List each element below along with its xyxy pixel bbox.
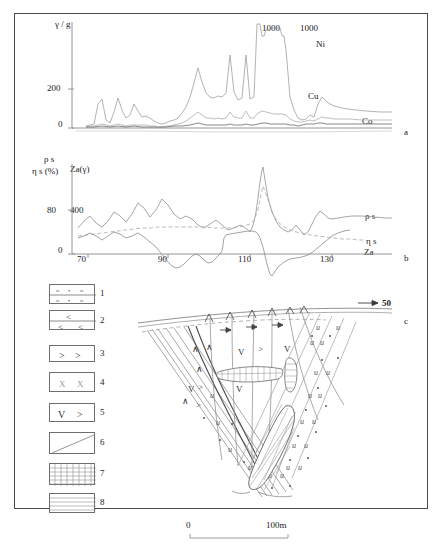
- panel-c-ore-lens-vertical: [284, 358, 297, 392]
- panel-c-top-arrows: [220, 323, 283, 333]
- scale-bar-end-label: 100m: [266, 521, 287, 530]
- svg-text:V: V: [284, 344, 291, 354]
- scale-bar-start-label: 0: [186, 521, 191, 530]
- svg-text:u: u: [318, 391, 322, 400]
- svg-text:u: u: [298, 463, 302, 472]
- svg-text:V: V: [236, 384, 243, 394]
- svg-text:∧: ∧: [192, 344, 199, 354]
- svg-text:∧: ∧: [182, 396, 189, 406]
- panel-c-scale-bar: [190, 534, 288, 538]
- panel-c-section: ∧ ∧ ∧ V > V V > V > ∧ > uu uu uu uu uu u…: [0, 0, 442, 545]
- figure-root: γ / g 200 0 1000 1000 Ni Cu Co a ρ s η: [0, 0, 442, 545]
- svg-text:V: V: [238, 347, 245, 357]
- panel-c-surface-line-2: [138, 312, 392, 327]
- panel-c-arrow-icon: [358, 301, 378, 306]
- svg-text:u: u: [326, 368, 330, 377]
- svg-text:u: u: [320, 338, 324, 347]
- svg-text:∧: ∧: [206, 342, 213, 352]
- panel-c-ore-lens-horizontal: [217, 366, 283, 382]
- svg-text:u: u: [286, 463, 290, 472]
- panel-c-surface-line-1: [138, 308, 392, 323]
- panel-c: 50 c: [0, 0, 442, 545]
- panel-c-dashed-horizon: [142, 319, 326, 332]
- svg-text:u: u: [308, 391, 312, 400]
- svg-text:V: V: [188, 384, 195, 394]
- svg-text:u: u: [216, 418, 220, 427]
- svg-text:u: u: [228, 445, 232, 454]
- svg-text:u: u: [248, 463, 252, 472]
- svg-text:u: u: [280, 471, 284, 480]
- svg-text:u: u: [312, 417, 316, 426]
- panel-c-lower-boundary: [232, 491, 292, 497]
- svg-text:u: u: [292, 441, 296, 450]
- svg-text:u: u: [336, 323, 340, 332]
- svg-text:>: >: [196, 400, 201, 410]
- svg-text:>: >: [258, 344, 263, 354]
- svg-text:u: u: [304, 441, 308, 450]
- svg-text:∧: ∧: [196, 364, 203, 374]
- svg-text:u: u: [300, 417, 304, 426]
- svg-text:u: u: [210, 391, 214, 400]
- svg-text:u: u: [310, 338, 314, 347]
- svg-text:>: >: [198, 382, 203, 392]
- svg-text:u: u: [314, 368, 318, 377]
- svg-text:u: u: [316, 323, 320, 332]
